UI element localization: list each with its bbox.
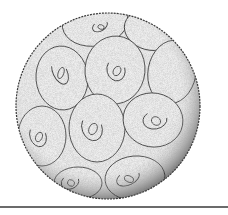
sphere-stipple	[16, 13, 200, 199]
cell-illustration	[0, 0, 228, 215]
horizontal-rule	[0, 206, 228, 208]
sphere-drawing	[0, 0, 228, 215]
